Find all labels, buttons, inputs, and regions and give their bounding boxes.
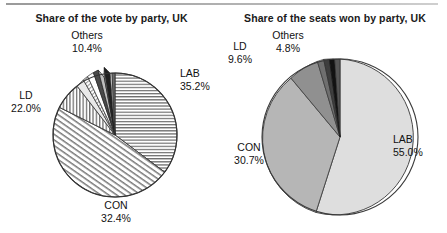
pie-label-ld-vote: LD 22.0%	[2, 89, 50, 114]
pie-label-lab-seats-value: 55.0%	[393, 146, 443, 159]
pie-label-con-seats-value: 30.7%	[221, 154, 277, 167]
pie-label-con-vote-value: 32.4%	[85, 212, 147, 225]
pie-label-lab-vote-value: 35.2%	[180, 80, 226, 93]
chart-panel-vote-share: Share of the vote by party, UK	[0, 0, 223, 233]
pie-label-ld-vote-value: 22.0%	[2, 102, 50, 115]
pie-label-con-vote-name: CON	[85, 199, 147, 212]
pie-label-lab-vote-name: LAB	[180, 67, 226, 80]
pie-label-con-vote: CON 32.4%	[85, 199, 147, 224]
pie-label-others-vote-value: 10.4%	[52, 42, 122, 55]
pie-label-con-seats: CON 30.7%	[221, 141, 277, 166]
pie-label-lab-seats-name: LAB	[393, 133, 443, 146]
pie-label-others-vote: Others 10.4%	[52, 29, 122, 54]
pie-label-ld-seats: LD 9.6%	[215, 40, 265, 65]
pie-label-lab-seats: LAB 55.0%	[393, 133, 443, 158]
pie-label-ld-seats-value: 9.6%	[215, 53, 265, 66]
pie-label-ld-seats-name: LD	[215, 40, 265, 53]
chart-panel-seats-share: Share of the seats won by party, UK Othe…	[223, 0, 447, 233]
pie-label-lab-vote: LAB 35.2%	[180, 67, 226, 92]
pie-label-ld-vote-name: LD	[2, 89, 50, 102]
pie-label-con-seats-name: CON	[221, 141, 277, 154]
pie-label-others-vote-name: Others	[52, 29, 122, 42]
